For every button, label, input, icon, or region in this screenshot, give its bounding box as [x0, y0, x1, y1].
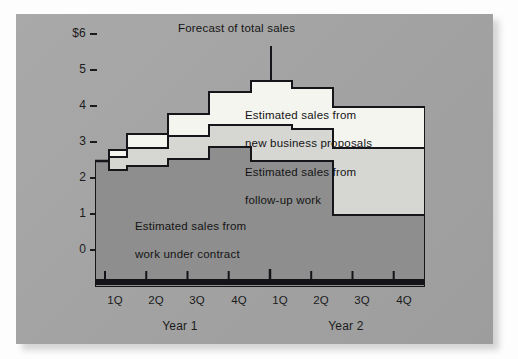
- x-tick-label-y2q2: 2Q: [306, 294, 336, 306]
- annotation-forecast-of-total-sales: Forecast of total sales: [178, 21, 295, 35]
- annotation-under-contract-line2: work under contract: [135, 247, 246, 261]
- y-tick-label-3: 3: [52, 134, 86, 148]
- annotation-follow-up-work: Estimated sales from follow-up work: [245, 151, 356, 221]
- x-axis-rule: [95, 279, 425, 285]
- annotation-new-business-line2: new business proposals: [245, 136, 372, 150]
- y-tick-label-0: 0: [52, 242, 86, 256]
- x-tick-label-y1q4: 4Q: [224, 294, 254, 306]
- y-tick-label-1: 1: [52, 206, 86, 220]
- y-tick-label-4: 4: [52, 98, 86, 112]
- x-tick-label-y1q3: 3Q: [182, 294, 212, 306]
- annotation-new-business-line1: Estimated sales from: [245, 108, 372, 122]
- annotation-under-contract-line1: Estimated sales from: [135, 219, 246, 233]
- x-tick-label-y1q1: 1Q: [100, 294, 130, 306]
- x-group-label-year-2: Year 2: [301, 319, 391, 333]
- y-tick-label-5: 5: [52, 62, 86, 76]
- x-tick-label-y2q3: 3Q: [347, 294, 377, 306]
- annotation-follow-up-line1: Estimated sales from: [245, 165, 356, 179]
- annotation-follow-up-line2: follow-up work: [245, 193, 356, 207]
- x-tick-label-y2q4: 4Q: [389, 294, 419, 306]
- plot-area: Forecast of total sales Estimated sales …: [95, 33, 425, 287]
- chart-page: Estimated sales (millions) $6 5 4 3 2 1 …: [0, 0, 518, 359]
- x-group-label-year-1: Year 1: [135, 319, 225, 333]
- y-tick-label-2: 2: [52, 170, 86, 184]
- annotation-work-under-contract: Estimated sales from work under contract: [135, 205, 246, 275]
- x-tick-label-y2q1: 1Q: [265, 294, 295, 306]
- y-tick-label-6: $6: [52, 26, 86, 40]
- x-tick-label-y1q2: 2Q: [141, 294, 171, 306]
